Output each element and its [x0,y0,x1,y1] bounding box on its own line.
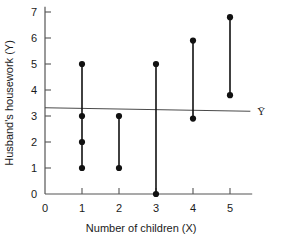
data-point [190,116,196,122]
x-tick-label: 0 [42,202,48,214]
y-tick-label: 5 [31,58,37,70]
x-tick-label: 4 [190,202,196,214]
chart-canvas: 01234567012345ȲNumber of children (X)Hu… [0,0,283,240]
x-tick-label: 5 [227,202,233,214]
data-point [116,165,122,171]
y-tick-label: 1 [31,162,37,174]
y-tick-label: 0 [31,188,37,200]
data-point [79,61,85,67]
y-tick-label: 6 [31,32,37,44]
data-point [79,113,85,119]
mean-line [45,108,250,112]
scatter-chart: 01234567012345ȲNumber of children (X)Hu… [0,0,283,240]
y-tick-label: 7 [31,6,37,18]
y-tick-label: 4 [31,84,37,96]
data-point [227,92,233,98]
data-point [116,113,122,119]
x-tick-label: 2 [116,202,122,214]
y-tick-label: 3 [31,110,37,122]
data-point [79,139,85,145]
x-tick-label: 1 [79,202,85,214]
y-axis-title: Husband's housework (Y) [3,40,15,166]
y-tick-label: 2 [31,136,37,148]
data-point [190,38,196,44]
data-point [227,14,233,20]
x-axis-title: Number of children (X) [86,222,197,234]
data-point [153,61,159,67]
x-tick-label: 3 [153,202,159,214]
mean-line-label: Ȳ [257,105,265,117]
data-point [79,165,85,171]
data-point [153,191,159,197]
